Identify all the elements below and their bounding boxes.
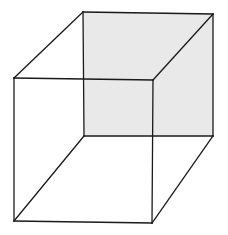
necker-cube-figure [0,0,228,235]
cube-drawing [0,0,228,235]
top-left-connector-edge [14,12,83,78]
bottom-left-connector-edge [14,136,84,221]
bottom-right-connector-edge [152,136,213,223]
front-bottom-edge [14,221,152,223]
shaded-back-face [83,12,213,136]
